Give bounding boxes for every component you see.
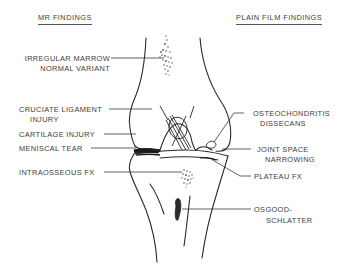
label-plateau-fx: PLATEAU FX	[254, 172, 302, 182]
heading-mr-findings: MR FINDINGS	[38, 13, 92, 25]
osteochondritis-fragment	[206, 141, 216, 148]
irregular-marrow-stipple	[159, 35, 172, 75]
label-osteochondritis-dissecans: OSTEOCHONDRITIS DISSECANS	[253, 109, 330, 128]
label-intraosseous-fx: INTRAOSSEOUS FX	[19, 168, 94, 178]
label-meniscal-tear: MENISCAL TEAR	[19, 144, 83, 154]
heading-plain-film-findings: PLAIN FILM FINDINGS	[236, 13, 322, 25]
label-cruciate-ligament: CRUCIATE LIGAMENT INJURY	[19, 105, 102, 124]
femur-right-outline	[200, 38, 231, 151]
cruciate-ligaments	[160, 106, 194, 150]
label-cartilage-injury: CARTILAGE INJURY	[19, 130, 95, 140]
label-joint-space-narrowing: JOINT SPACE NARROWING	[257, 145, 315, 164]
label-irregular-marrow: IRREGULAR MARROW NORMAL VARIANT	[18, 54, 110, 73]
femur-left-outline	[129, 38, 146, 146]
tibia-left-outline	[129, 154, 157, 262]
knee-findings-diagram: MR FINDINGS PLAIN FILM FINDINGS IRREGULA…	[0, 0, 352, 270]
tibia-right-outline	[202, 156, 228, 258]
intraosseous-fx-stipple	[181, 169, 193, 187]
osgood-schlatter-ossicle	[175, 198, 181, 220]
label-osgood-schlatter: OSGOOD- SCHLATTER	[254, 205, 313, 225]
